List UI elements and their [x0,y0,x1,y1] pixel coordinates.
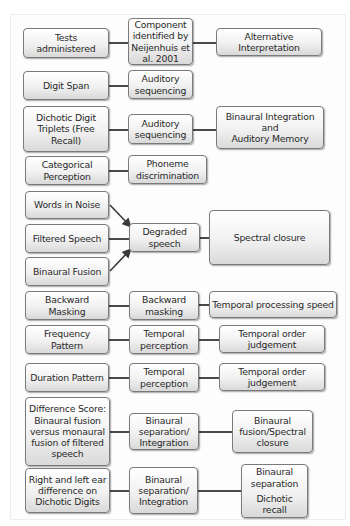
box-text-line: Temporal order [238,328,306,339]
component-auditory-sequencing: Auditorysequencing [128,114,193,144]
test-backward-masking: BackwardMasking [25,291,109,320]
alt-temporal-processing-speed: Temporal processing speed [209,291,337,318]
arrow-icon [110,205,130,226]
box-text-line: Integration [139,437,189,448]
box-text-line: discrimination [136,170,199,181]
alt-binaural-fusion-spectral-closure: Binauralfusion/Spectralclosure [232,410,313,453]
box-text-line: Perception [42,171,93,182]
box-text-line: Binaural [138,474,188,485]
box-text-line: and [226,122,315,133]
test-difference-score: Difference Score:Binaural fusionversus m… [25,397,110,466]
component-auditory-sequencing: Auditorysequencing [128,70,193,99]
box-text-line: Words in Noise [34,199,100,210]
box-text-line: Tests [37,32,96,43]
box-text-line: Auditory Memory [226,133,315,144]
box-text-line: Binaural [139,415,189,426]
box-text-line: Degraded [142,226,186,237]
test-duration-pattern: Duration Pattern [25,363,109,392]
box-text-line: Auditory [135,118,186,129]
box-text-line: Binaural [251,466,299,477]
box-text-line: Dichotic Digits [29,496,107,507]
test-dichotic-digit-triplets: Dichotic DigitTriplets (FreeRecall) [23,106,109,152]
box-text-line: fusion of filtered [29,437,106,448]
component-degraded-speech: Degradedspeech [129,223,200,252]
box-text-line: difference on [29,485,107,496]
box-text-line: fusion/Spectral [239,426,306,437]
box-text-line: Backward [142,294,186,305]
test-digit-span: Digit Span [23,71,109,100]
box-text-line: Recall) [36,135,96,146]
box-text-line: separation/ [138,485,188,496]
box-text-line: speech [29,448,106,459]
alt-spectral-closure: Spectral closure [209,210,330,265]
component-backward-masking: Backwardmasking [129,291,199,320]
box-text-line: Filtered Speech [33,233,102,244]
alt-binaural-integration-auditory-memory: Binaural IntegrationandAuditory Memory [216,106,324,149]
box-text-line: Temporal order [238,366,306,377]
box-text-line: Difference Score: [29,403,106,414]
header-tests-administered: Testsadministered [23,28,109,58]
box-text-line: administered [37,43,96,54]
box-text-line: Binaural fusion [29,415,106,426]
box-text-line: Dichotic Digit [36,112,96,123]
box-text-line: Spectral closure [234,232,306,243]
box-text-line: Temporal processing speed [212,299,334,310]
box-text-line: Binaural [239,415,306,426]
box-text-line: identified by [131,30,189,41]
test-frequency-pattern: Frequency Pattern [25,325,109,354]
test-words-in-noise: Words in Noise [25,191,109,219]
box-text-line: Categorical [42,159,93,170]
box-text-line: perception [140,340,188,351]
test-binaural-fusion: Binaural Fusion [25,257,109,286]
component-temporal-perception: Temporalperception [129,363,199,392]
box-text-line: Temporal [140,328,188,339]
arrow-icon [110,250,130,271]
box-text-line: Dichotic [251,493,299,504]
component-binaural-separation-integration: Binauralseparation/Integration [129,413,199,450]
box-text-line: Phoneme [136,158,199,169]
box-text-line: Integration [138,496,188,507]
header-component: Componentidentified byNeijenhuis etal. 2… [128,18,193,65]
box-text-line: al. 2001 [131,53,189,64]
box-text-line: speech [142,238,186,249]
header-alternative-interpretation: AlternativeInterpretation [216,28,322,56]
box-text-line: Interpretation [238,42,299,53]
component-temporal-perception: Temporalperception [129,325,199,354]
box-text-line: judgement [238,377,306,388]
box-text-line: Backward [45,294,89,305]
test-filtered-speech: Filtered Speech [25,224,109,253]
box-text-line: judgement [238,339,306,350]
box-text-line: Alternative [238,31,299,42]
box-text-line: recall [251,504,299,515]
box-text-line: sequencing [135,129,186,140]
box-text-line: perception [140,378,188,389]
test-right-left-ear-difference: Right and left eardifference onDichotic … [25,468,110,513]
box-text-line: Auditory [135,73,186,84]
box-text-line: Neijenhuis et [131,42,189,53]
alt-temporal-order-judgement: Temporal orderjudgement [219,363,325,391]
box-text-line: separation [251,478,299,489]
alt-binaural-separation-dichotic-recall: BinauralseparationDichoticrecall [241,464,308,518]
box-text-line: masking [142,306,186,317]
box-text-line: closure [239,437,306,448]
box-text-line: Digit Span [43,80,89,91]
box-text-line: versus monaural [29,426,106,437]
box-text-line: Temporal [140,366,188,377]
component-phoneme-discrimination: Phonemediscrimination [128,155,207,184]
box-text-line: sequencing [135,85,186,96]
box-text-line: Triplets (Free [36,123,96,134]
box-text-line: Right and left ear [29,474,107,485]
box-text-line: Frequency Pattern [28,328,106,351]
test-categorical-perception: CategoricalPerception [25,156,109,185]
alt-temporal-order-judgement: Temporal orderjudgement [219,325,325,353]
box-text-line: Masking [45,306,89,317]
component-binaural-separation-integration: Binauralseparation/Integration [129,467,198,514]
box-text-line: Component [131,19,189,30]
box-text-line: Binaural Fusion [33,266,101,277]
box-text-line: Binaural Integration [226,111,315,122]
box-text-line: separation/ [139,426,189,437]
box-text-line: Duration Pattern [30,372,104,383]
